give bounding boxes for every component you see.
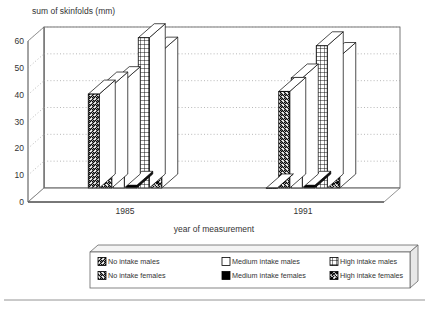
legend-swatch-diagonal-down-hatch [98, 272, 106, 280]
bar-side-face [99, 80, 115, 188]
bar-1985-high-intake-males [138, 24, 165, 188]
chart-title: sum of skinfolds (mm) [32, 6, 115, 16]
bar-front-face [88, 94, 99, 188]
category-label-1985: 1985 [116, 206, 135, 216]
bar-side-face [290, 77, 306, 188]
legend-label: No intake males [108, 257, 160, 266]
y-tick-label: 40 [15, 90, 25, 100]
skinfolds-bar-chart: 0102030405060 19851991 sum of skinfolds … [0, 0, 429, 309]
y-tick-label: 0 [19, 197, 24, 207]
legend-swatch-solid-black [222, 272, 230, 280]
x-axis-label: year of measurement [174, 224, 255, 234]
bar-side-face [149, 24, 165, 188]
y-tick-label: 20 [15, 143, 25, 153]
legend-top-face [90, 245, 418, 252]
legend-label: High intake females [340, 271, 404, 280]
legend-swatch-diagonal-up-hatch [98, 258, 106, 266]
legend-box [90, 245, 418, 288]
legend-label: Medium intake males [232, 257, 300, 266]
category-label-1991: 1991 [294, 206, 313, 216]
legend-side-face [410, 245, 418, 288]
bar-side-face [327, 32, 343, 188]
legend-swatch-cross-hatch [330, 272, 338, 280]
legend-label: High intake males [340, 257, 398, 266]
chart-figure: 0102030405060 19851991 sum of skinfolds … [0, 0, 429, 309]
bar-front-face [126, 185, 137, 188]
y-tick-label: 50 [15, 63, 25, 73]
bar-1985-no-intake-males [88, 80, 115, 188]
y-tick-label: 30 [15, 117, 25, 127]
plot-floor [28, 188, 400, 202]
legend-label: No intake females [108, 271, 166, 280]
y-tick-label: 60 [15, 36, 25, 46]
legend-swatch-grid-hatch [330, 258, 338, 266]
bar-1991-high-intake-males [316, 32, 343, 188]
legend-label: Medium intake females [232, 271, 306, 280]
legend-swatch-solid-white [222, 258, 230, 266]
bar-front-face [304, 185, 315, 188]
bar-front-face [279, 91, 290, 188]
bar-1991-no-intake-females [279, 77, 306, 188]
y-tick-label: 10 [15, 170, 25, 180]
plot-left-wall [28, 27, 44, 202]
